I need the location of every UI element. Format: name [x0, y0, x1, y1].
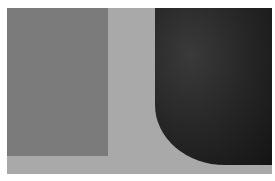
gray-rectangle [7, 8, 108, 156]
abstract-artwork: Abstract grayscale composition: medium-g… [7, 8, 272, 174]
dark-rounded-shape [155, 8, 272, 165]
